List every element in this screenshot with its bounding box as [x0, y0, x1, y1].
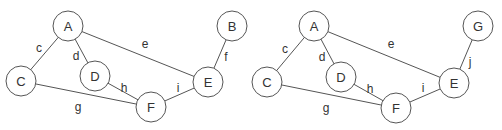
edge-label-g: g — [323, 101, 330, 115]
edge-label-d: d — [319, 50, 326, 64]
node-label: D — [336, 70, 345, 85]
node-c: C — [252, 67, 282, 97]
nodes: AGCDEF — [252, 11, 493, 123]
edge-label-h: h — [367, 82, 374, 96]
graph-right: cdejghiAGCDEF — [252, 11, 493, 123]
node-d: D — [326, 62, 356, 92]
edge-label-e: e — [388, 37, 395, 51]
node-b: B — [217, 11, 247, 41]
node-label: D — [90, 69, 99, 84]
node-a: A — [299, 11, 329, 41]
edge-label-c: c — [36, 41, 42, 55]
edge-label-d: d — [73, 49, 80, 63]
node-a: A — [53, 11, 83, 41]
node-label: F — [147, 100, 155, 115]
node-e: E — [439, 68, 469, 98]
graph-left: cdefghiABCDEF — [6, 11, 247, 122]
nodes: ABCDEF — [6, 11, 247, 122]
node-label: G — [473, 19, 483, 34]
node-c: C — [6, 66, 36, 96]
edge-label-j: j — [468, 55, 472, 69]
node-label: E — [204, 75, 213, 90]
node-f: F — [381, 93, 411, 123]
edge-label-i: i — [177, 81, 180, 95]
edge-label-h: h — [121, 81, 128, 95]
node-label: C — [262, 75, 271, 90]
node-label: C — [16, 74, 25, 89]
node-g: G — [463, 11, 493, 41]
edge-label-e: e — [142, 37, 149, 51]
graph-diagram: cdefghiABCDEF cdejghiAGCDEF — [0, 0, 502, 130]
node-label: A — [64, 19, 73, 34]
node-label: E — [450, 76, 459, 91]
node-f: F — [136, 92, 166, 122]
edge-label-i: i — [422, 81, 425, 95]
node-label: F — [392, 101, 400, 116]
edge-label-f: f — [224, 50, 228, 64]
node-d: D — [80, 61, 110, 91]
node-label: A — [310, 19, 319, 34]
node-label: B — [228, 19, 237, 34]
edge-label-g: g — [75, 100, 82, 114]
node-e: E — [193, 67, 223, 97]
edge-label-c: c — [282, 42, 288, 56]
